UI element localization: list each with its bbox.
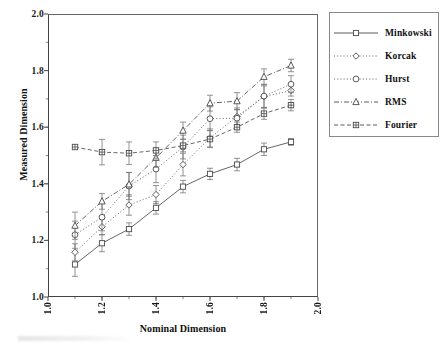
legend-swatch <box>330 69 382 89</box>
legend-label: Hurst <box>385 74 410 84</box>
legend-entry-korcak[interactable]: Korcak <box>330 45 440 67</box>
scan-artifact <box>18 336 136 341</box>
x-axis-title: Nominal Dimension <box>48 323 318 334</box>
chart-figure: 2.0 1.8 1.6 1.4 1.2 1.0 1.0 1.2 1.4 1.6 … <box>0 0 443 346</box>
y-axis-title: Measured Dimension <box>18 60 29 210</box>
legend-label: RMS <box>385 97 407 107</box>
legend-swatch <box>330 46 382 66</box>
legend-swatch <box>330 23 382 43</box>
scan-artifact <box>150 190 154 193</box>
legend-swatch <box>330 115 382 135</box>
legend-label: Minkowski <box>385 28 432 38</box>
legend-entry-hurst[interactable]: Hurst <box>330 68 440 90</box>
legend-entry-minkowski[interactable]: Minkowski <box>330 22 440 44</box>
legend-entry-fourier[interactable]: Fourier <box>330 114 440 136</box>
legend-entry-rms[interactable]: RMS <box>330 91 440 113</box>
legend-label: Korcak <box>385 51 416 61</box>
legend-swatch <box>330 92 382 112</box>
legend: Minkowski Korcak Hurst RMS Fourier <box>329 12 439 137</box>
legend-label: Fourier <box>385 120 417 130</box>
